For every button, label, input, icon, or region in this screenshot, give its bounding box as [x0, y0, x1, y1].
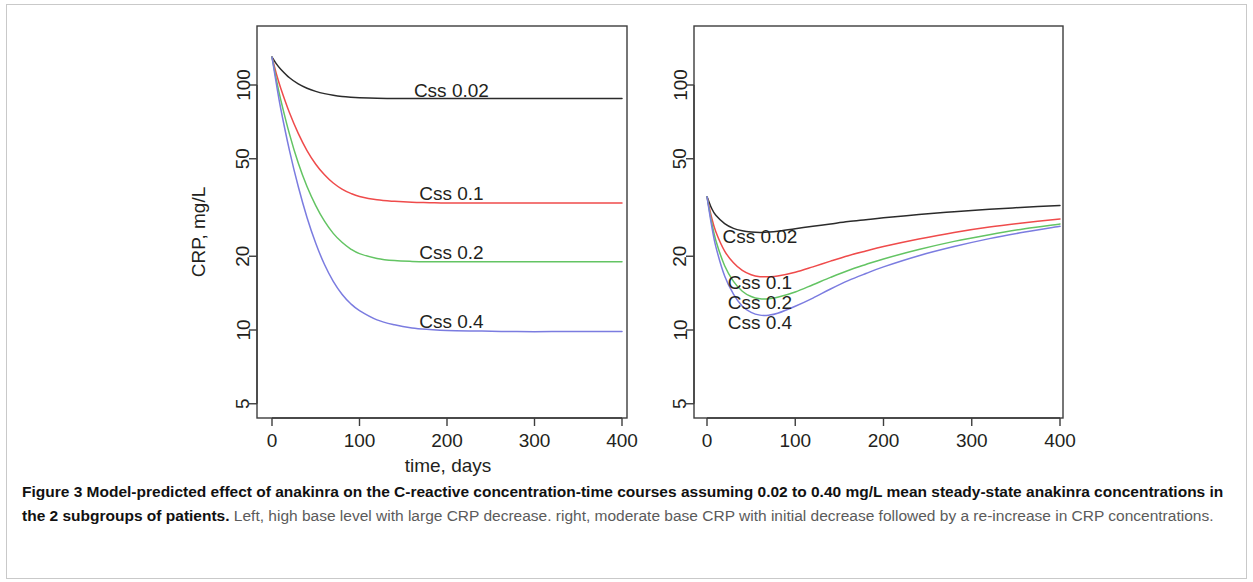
plot-panel-left: 51020501000100200300400Css 0.02Css 0.1Cs… [233, 26, 638, 451]
curve-left-css-0-1 [272, 57, 622, 203]
x-axis-left: 0100200300400 [267, 418, 638, 451]
x-tick-label-right-2: 200 [868, 430, 900, 451]
curve-label-left-0: Css 0.02 [414, 80, 489, 101]
plot-panel-right: 51020501000100200300400Css 0.02Css 0.1Cs… [670, 26, 1076, 451]
curve-label-right-2: Css 0.2 [728, 292, 792, 313]
y-axis-left: 5102050100 [233, 69, 258, 409]
curve-label-right-0: Css 0.02 [722, 226, 797, 247]
x-tick-label-left-2: 200 [431, 430, 463, 451]
y-tick-label-left-1: 10 [233, 319, 254, 340]
figure-page: 51020501000100200300400Css 0.02Css 0.1Cs… [0, 0, 1253, 582]
y-tick-label-right-1: 10 [670, 319, 691, 340]
x-tick-label-left-1: 100 [344, 430, 376, 451]
y-tick-label-left-0: 5 [233, 398, 254, 409]
y-tick-label-left-4: 100 [233, 69, 254, 101]
x-tick-label-right-3: 300 [956, 430, 988, 451]
x-tick-label-right-0: 0 [702, 430, 713, 451]
y-tick-label-left-3: 50 [233, 148, 254, 169]
curve-label-right-1: Css 0.1 [728, 272, 792, 293]
y-tick-label-right-2: 20 [670, 246, 691, 267]
y-tick-label-right-4: 100 [670, 69, 691, 101]
x-axis-title: time, days [405, 455, 492, 476]
y-tick-label-left-2: 20 [233, 246, 254, 267]
plot-frame-right [694, 26, 1063, 418]
curve-label-right-3: Css 0.4 [728, 312, 793, 333]
y-axis-title: CRP, mg/L [188, 187, 209, 277]
x-axis-right: 0100200300400 [702, 418, 1076, 451]
figure-caption: Figure 3 Model-predicted effect of anaki… [22, 480, 1232, 527]
page-border-bottom [6, 578, 1247, 579]
x-tick-label-left-4: 400 [606, 430, 638, 451]
curve-label-left-2: Css 0.2 [419, 242, 483, 263]
figure-plots-area: 51020501000100200300400Css 0.02Css 0.1Cs… [0, 0, 1253, 470]
y-tick-label-right-0: 5 [670, 398, 691, 409]
curve-label-left-3: Css 0.4 [419, 311, 484, 332]
y-axis-right: 5102050100 [670, 69, 695, 409]
x-tick-label-left-0: 0 [267, 430, 278, 451]
x-tick-label-right-1: 100 [779, 430, 811, 451]
y-tick-label-right-3: 50 [670, 148, 691, 169]
curve-label-left-1: Css 0.1 [419, 183, 483, 204]
x-tick-label-left-3: 300 [519, 430, 551, 451]
x-tick-label-right-4: 400 [1044, 430, 1076, 451]
caption-rest-text: Left, high base level with large CRP dec… [230, 507, 1214, 524]
dual-panel-line-chart: 51020501000100200300400Css 0.02Css 0.1Cs… [0, 0, 1253, 470]
